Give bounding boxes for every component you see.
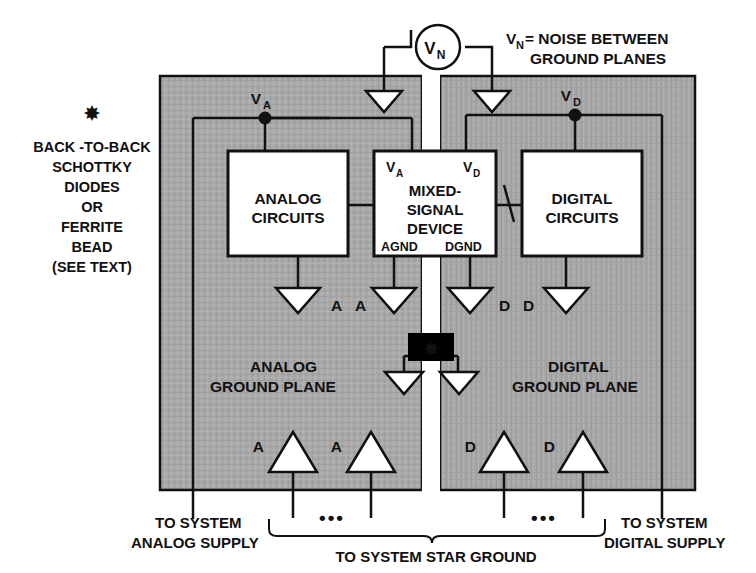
asterisk-icon: ✸ — [83, 103, 100, 124]
digital-circuits-label-1: DIGITAL — [552, 190, 613, 207]
node-vd-dot — [569, 109, 582, 122]
ground-label-mid-4: D — [523, 297, 534, 314]
ground-label-mid-2: A — [355, 297, 366, 314]
ground-label-mid-1: A — [331, 297, 342, 314]
analog-ground-plane — [160, 76, 422, 490]
msd-vd-pin-label: V — [463, 159, 473, 175]
analog-plane-label-2: GROUND PLANE — [210, 378, 336, 395]
analog-circuits-label-2: CIRCUITS — [251, 209, 324, 226]
noise-caption-v-sub: N — [516, 39, 524, 51]
noise-caption-line2: GROUND PLANES — [530, 50, 666, 67]
star-ground-caption: TO SYSTEM STAR GROUND — [335, 548, 536, 565]
ground-label-bottom-4: D — [544, 438, 555, 455]
footnote-line-6: BEAD — [71, 239, 112, 255]
msd-agnd-label: AGND — [381, 240, 418, 254]
grounding-diagram: V N V N = NOISE BETWEEN GROUND PLANES ✸ … — [0, 0, 756, 573]
footnote-line-3: DIODES — [64, 179, 120, 195]
node-va-label-v: V — [251, 90, 262, 107]
digital-plane-label-2: GROUND PLANE — [512, 378, 638, 395]
meter-label-sub: N — [437, 48, 446, 62]
footnote-line-2: SCHOTTKY — [52, 159, 132, 175]
noise-caption-rest: = NOISE BETWEEN — [525, 30, 668, 47]
footnote-block: ✸ BACK -TO-BACK SCHOTTKY DIODES OR FERRI… — [33, 103, 151, 275]
digital-plane-label-1: DIGITAL — [548, 358, 609, 375]
analog-supply-caption-1: TO SYSTEM — [155, 514, 241, 531]
msd-va-pin-label: V — [386, 159, 396, 175]
msd-label-3: DEVICE — [407, 220, 463, 237]
mixed-signal-device-block: V A V D MIXED- SIGNAL DEVICE AGND DGND — [374, 151, 496, 256]
digital-supply-caption: TO SYSTEM DIGITAL SUPPLY — [604, 514, 725, 551]
analog-supply-caption: TO SYSTEM ANALOG SUPPLY — [131, 514, 259, 551]
noise-caption: V N = NOISE BETWEEN GROUND PLANES — [506, 30, 668, 67]
msd-va-pin-sub: A — [396, 168, 403, 179]
ellipsis-digital: ••• — [531, 507, 557, 528]
star-asterisk-icon: ✸ — [423, 340, 439, 359]
ground-label-bottom-1: A — [253, 438, 264, 455]
digital-circuits-block: DIGITAL CIRCUITS — [522, 151, 642, 256]
node-va-label-sub: A — [263, 99, 271, 111]
node-vd-label-v: V — [561, 87, 572, 104]
analog-circuits-block: ANALOG CIRCUITS — [228, 151, 348, 256]
meter-label: V — [424, 39, 436, 58]
footnote-line-4: OR — [81, 199, 103, 215]
msd-label-1: MIXED- — [409, 182, 462, 199]
digital-circuits-label-2: CIRCUITS — [545, 209, 618, 226]
diagram-canvas: V N V N = NOISE BETWEEN GROUND PLANES ✸ … — [0, 0, 756, 573]
noise-source-symbol — [416, 25, 460, 69]
digital-supply-caption-1: TO SYSTEM — [621, 514, 707, 531]
analog-circuits-label-1: ANALOG — [254, 190, 321, 207]
analog-plane-label-1: ANALOG — [250, 358, 317, 375]
digital-supply-caption-2: DIGITAL SUPPLY — [604, 534, 725, 551]
msd-vd-pin-sub: D — [473, 168, 480, 179]
msd-label-2: SIGNAL — [407, 201, 464, 218]
node-vd-label-sub: D — [573, 96, 581, 108]
ground-label-mid-3: D — [499, 297, 510, 314]
msd-dgnd-label: DGND — [445, 240, 482, 254]
footnote-line-1: BACK -TO-BACK — [33, 139, 151, 155]
footnote-line-7: (SEE TEXT) — [52, 259, 132, 275]
digital-ground-plane — [440, 76, 695, 490]
ground-label-bottom-3: D — [465, 438, 476, 455]
node-va-dot — [259, 112, 272, 125]
ellipsis-analog: ••• — [319, 507, 345, 528]
analog-supply-caption-2: ANALOG SUPPLY — [131, 534, 259, 551]
ground-plane-split-gap — [422, 74, 440, 492]
ground-label-bottom-2: A — [331, 438, 342, 455]
footnote-line-5: FERRITE — [61, 219, 123, 235]
